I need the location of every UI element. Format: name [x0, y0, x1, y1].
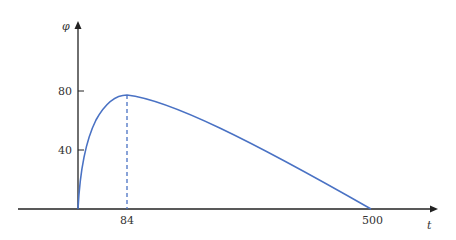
y-axis-label: φ — [62, 20, 70, 33]
x-axis-label: t — [427, 219, 432, 232]
x-tick-label-500: 500 — [362, 214, 383, 227]
phi-curve — [78, 95, 371, 209]
y-tick-label-40: 40 — [58, 144, 72, 157]
x-axis-arrow-icon — [430, 206, 438, 213]
x-tick-label-84: 84 — [120, 214, 134, 227]
y-tick-label-80: 80 — [58, 85, 72, 98]
y-axis-arrow-icon — [75, 21, 82, 29]
chart-canvas: φ 80 40 84 500 t — [0, 0, 456, 240]
